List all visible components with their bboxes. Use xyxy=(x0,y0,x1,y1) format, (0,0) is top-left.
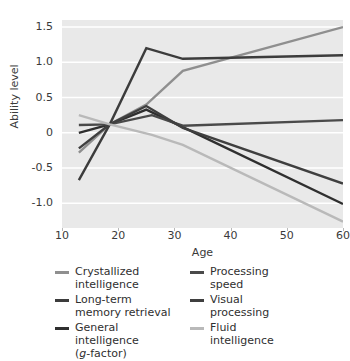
legend-item[interactable]: Visual processing xyxy=(190,293,335,319)
x-axis-title: Age xyxy=(62,246,343,259)
legend-item-label: Processing speed xyxy=(210,265,269,291)
x-tick-label: 50 xyxy=(280,230,294,242)
legend-item[interactable]: Long-term memory retrieval xyxy=(55,293,190,319)
x-tick-label: 60 xyxy=(336,230,350,242)
y-tick-label: -0.5 xyxy=(32,163,53,173)
legend-item[interactable]: Processing speed xyxy=(190,265,335,291)
gridlines xyxy=(62,27,343,203)
plot-svg xyxy=(62,20,343,228)
legend-item-label: Long-term memory retrieval xyxy=(75,293,170,319)
series-line-4 xyxy=(79,106,343,184)
y-tick-label: 1.0 xyxy=(36,57,54,67)
y-tick-label: -1.0 xyxy=(32,198,53,208)
x-tick-label: 30 xyxy=(167,230,181,242)
x-axis-tick-labels: 102030405060 xyxy=(62,230,343,246)
legend-item-label: Fluid intelligence xyxy=(210,321,274,347)
y-tick-label: 0.5 xyxy=(36,93,54,103)
legend-item-label: Crystallized intelligence xyxy=(75,265,139,291)
series-line-0 xyxy=(79,27,343,153)
legend-column-left: Crystallized intelligenceLong-term memor… xyxy=(55,265,190,361)
legend-column-right: Processing speedVisual processingFluid i… xyxy=(190,265,335,349)
chart-legend: Crystallized intelligenceLong-term memor… xyxy=(0,265,349,361)
line-swatch-icon xyxy=(190,299,204,302)
series-lines xyxy=(79,27,343,222)
x-tick-label: 40 xyxy=(224,230,238,242)
line-swatch-icon xyxy=(55,327,69,330)
y-tick-label: 1.5 xyxy=(36,22,54,32)
y-tick-label: 0 xyxy=(46,128,53,138)
legend-item[interactable]: Fluid intelligence xyxy=(190,321,335,347)
x-tick-label: 10 xyxy=(55,230,69,242)
x-tick-label: 20 xyxy=(111,230,125,242)
line-chart: Ability level 1.51.00.50-0.5-1.0 1020304… xyxy=(0,0,349,262)
y-axis-tick-labels: 1.51.00.50-0.5-1.0 xyxy=(0,20,58,228)
line-swatch-icon xyxy=(190,271,204,274)
line-swatch-icon xyxy=(55,299,69,302)
legend-item-label: General intelligence (g-factor) xyxy=(75,321,139,360)
plot-area xyxy=(62,20,343,228)
legend-item[interactable]: Crystallized intelligence xyxy=(55,265,190,291)
legend-item[interactable]: General intelligence (g-factor) xyxy=(55,321,190,360)
series-line-1 xyxy=(79,48,343,180)
legend-item-label: Visual processing xyxy=(210,293,269,319)
line-swatch-icon xyxy=(55,271,69,274)
line-swatch-icon xyxy=(190,327,204,330)
